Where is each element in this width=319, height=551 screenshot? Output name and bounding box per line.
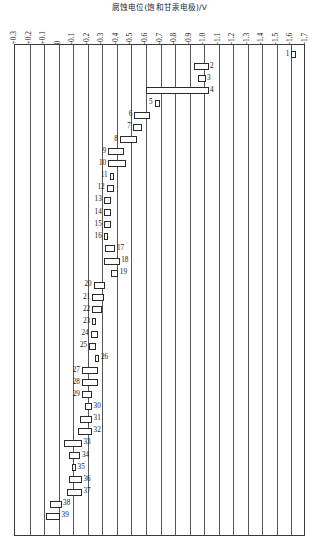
bar-14 xyxy=(104,209,111,216)
gridline-6 xyxy=(102,45,103,535)
bar-19 xyxy=(111,270,118,277)
bar-label-30: 30 xyxy=(94,403,101,410)
bar-label-19: 19 xyxy=(120,269,127,276)
x-tick-label-7: -0.4 xyxy=(111,32,118,44)
x-tick-label-11: -0.8 xyxy=(170,32,177,44)
bar-32 xyxy=(78,428,93,435)
x-tick-label-13: -1.0 xyxy=(199,32,206,44)
bar-label-11: 11 xyxy=(97,172,108,179)
gridline-11 xyxy=(175,45,176,535)
x-tick-label-14: -1.1 xyxy=(213,32,220,44)
x-tick-label-5: -0.2 xyxy=(82,32,89,44)
bar-label-3: 3 xyxy=(207,75,211,82)
bar-22 xyxy=(92,306,102,313)
bar-35 xyxy=(72,464,76,471)
bar-23 xyxy=(92,318,96,325)
bar-39 xyxy=(46,513,61,520)
bar-label-7: 7 xyxy=(120,123,131,130)
gridline-19 xyxy=(291,45,292,535)
gridline-12 xyxy=(190,45,191,535)
bar-17 xyxy=(105,245,115,252)
x-tick-label-20: -1.7 xyxy=(301,32,308,44)
bar-3 xyxy=(198,75,205,82)
bar-label-9: 9 xyxy=(95,148,106,155)
bar-36 xyxy=(69,476,82,483)
bar-11 xyxy=(110,173,114,180)
bar-7 xyxy=(133,124,142,131)
gridline-4 xyxy=(73,45,74,535)
x-tick-label-15: -1.2 xyxy=(228,32,235,44)
bar-16 xyxy=(104,233,108,240)
x-tick-label-8: -0.5 xyxy=(126,32,133,44)
x-tick-label-2: +0.1 xyxy=(39,31,46,44)
x-tick-label-16: -1.3 xyxy=(242,32,249,44)
bar-label-31: 31 xyxy=(94,415,101,422)
x-tick-label-17: -1.4 xyxy=(257,32,264,44)
gridline-1 xyxy=(30,45,31,535)
x-tick-label-18: -1.5 xyxy=(271,32,278,44)
bar-label-36: 36 xyxy=(83,476,90,483)
bar-4 xyxy=(146,87,209,94)
bar-label-21: 21 xyxy=(79,294,90,301)
bar-label-10: 10 xyxy=(95,160,106,167)
bar-2 xyxy=(194,63,209,70)
bar-20 xyxy=(94,282,106,289)
bar-label-26: 26 xyxy=(101,354,108,361)
bar-31 xyxy=(80,416,92,423)
bar-label-16: 16 xyxy=(91,233,102,240)
bar-13 xyxy=(104,197,111,204)
bar-24 xyxy=(91,331,98,338)
bar-label-14: 14 xyxy=(91,209,102,216)
bar-18 xyxy=(104,258,120,265)
bar-label-2: 2 xyxy=(210,63,214,70)
bar-12 xyxy=(107,185,114,192)
bar-label-37: 37 xyxy=(83,488,90,495)
corrosion-potential-chart: 腐蚀电位(饱和甘汞电极)/V +0.3+0.2+0.10-0.1-0.2-0.3… xyxy=(0,0,319,551)
bar-label-12: 12 xyxy=(94,184,105,191)
bar-label-32: 32 xyxy=(94,427,101,434)
bar-label-20: 20 xyxy=(81,281,92,288)
gridline-10 xyxy=(161,45,162,535)
bar-label-34: 34 xyxy=(82,452,89,459)
bar-10 xyxy=(108,160,125,167)
gridline-16 xyxy=(248,45,249,535)
bar-6 xyxy=(134,112,150,119)
bar-label-27: 27 xyxy=(69,367,80,374)
bar-label-8: 8 xyxy=(107,136,118,143)
gridline-3 xyxy=(59,45,60,535)
bar-1 xyxy=(291,51,295,58)
bar-label-17: 17 xyxy=(117,245,124,252)
bar-label-5: 5 xyxy=(142,99,153,106)
bar-label-15: 15 xyxy=(91,221,102,228)
bar-30 xyxy=(85,403,92,410)
bar-label-38: 38 xyxy=(63,500,70,507)
bar-label-23: 23 xyxy=(79,318,90,325)
bar-label-1: 1 xyxy=(278,51,289,58)
gridline-5 xyxy=(88,45,89,535)
x-tick-label-9: -0.6 xyxy=(141,32,148,44)
bar-5 xyxy=(155,100,161,107)
x-tick-label-4: -0.1 xyxy=(68,32,75,44)
bar-33 xyxy=(64,440,81,447)
x-tick-label-1: +0.2 xyxy=(24,31,31,44)
x-axis-tick-labels: +0.3+0.2+0.10-0.1-0.2-0.3-0.4-0.5-0.6-0.… xyxy=(0,11,319,44)
bar-28 xyxy=(82,379,98,386)
bar-label-39: 39 xyxy=(62,512,69,519)
bar-25 xyxy=(89,343,96,350)
bar-27 xyxy=(82,367,98,374)
gridline-7 xyxy=(117,45,118,535)
bar-label-25: 25 xyxy=(76,342,87,349)
gridline-15 xyxy=(233,45,234,535)
bar-label-28: 28 xyxy=(69,379,80,386)
bar-38 xyxy=(50,501,62,508)
gridline-2 xyxy=(44,45,45,535)
bar-label-13: 13 xyxy=(91,196,102,203)
gridline-13 xyxy=(204,45,205,535)
bar-37 xyxy=(67,489,82,496)
x-tick-label-10: -0.7 xyxy=(155,32,162,44)
bar-34 xyxy=(69,452,81,459)
bar-label-29: 29 xyxy=(69,391,80,398)
bar-26 xyxy=(95,355,99,362)
gridline-17 xyxy=(262,45,263,535)
bar-label-35: 35 xyxy=(78,464,85,471)
